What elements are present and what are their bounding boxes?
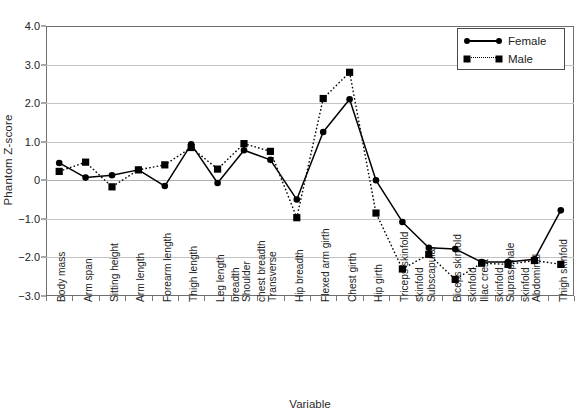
data-point-marker [214, 166, 221, 173]
data-point-marker [452, 276, 459, 283]
legend-item-male: Male [463, 50, 564, 68]
data-point-marker [346, 96, 353, 103]
legend-key-male-dotted-line-square-icon [463, 53, 503, 65]
data-point-marker [162, 183, 169, 190]
legend: Female Male [457, 28, 565, 70]
data-point-marker [478, 260, 485, 267]
data-point-marker [399, 219, 406, 226]
data-point-marker [161, 161, 168, 168]
data-point-marker [214, 180, 221, 187]
data-point-marker [399, 265, 406, 272]
legend-label-female: Female [508, 35, 546, 47]
data-point-marker [56, 168, 63, 175]
data-point-marker [267, 148, 274, 155]
data-point-marker [188, 144, 195, 151]
data-point-marker [346, 69, 353, 76]
data-point-marker [82, 159, 89, 166]
series-line-female [59, 99, 561, 262]
data-point-marker [293, 214, 300, 221]
data-point-marker [557, 261, 564, 268]
data-point-marker [531, 257, 538, 264]
data-point-marker [320, 95, 327, 102]
series-line-male [59, 72, 561, 279]
series-male [56, 69, 565, 283]
x-axis-title: Variable [46, 398, 574, 410]
data-point-marker [504, 261, 511, 268]
data-point-marker [558, 207, 565, 214]
data-point-marker [373, 177, 380, 184]
data-point-marker [425, 251, 432, 258]
data-point-marker [294, 196, 301, 203]
data-point-marker [82, 174, 89, 181]
data-point-marker [426, 244, 433, 251]
data-point-marker [109, 172, 116, 179]
data-point-marker [135, 166, 142, 173]
data-point-marker [108, 183, 115, 190]
data-point-marker [241, 147, 248, 154]
series-female [56, 96, 564, 265]
data-point-marker [56, 160, 63, 167]
data-point-marker [320, 129, 327, 136]
data-point-marker [372, 209, 379, 216]
data-point-marker [240, 140, 247, 147]
legend-label-male: Male [508, 53, 533, 65]
data-point-marker [452, 246, 459, 253]
legend-item-female: Female [463, 32, 564, 50]
chart-figure: Phantom Z-score 4.03.02.01.00−1.0−2.0−3.… [0, 0, 582, 420]
legend-key-female-solid-line-circle-icon [463, 35, 503, 47]
